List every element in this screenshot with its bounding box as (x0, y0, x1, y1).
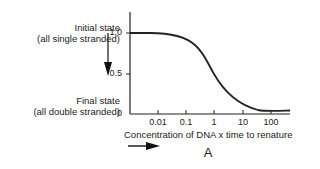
right-arrow-icon (128, 142, 160, 150)
y-tick-label: 1.0 (102, 27, 122, 37)
y-tick-label: 0.5 (102, 68, 122, 78)
x-tick-label: 1 (211, 117, 216, 127)
x-tick-label: 100 (263, 117, 278, 127)
panel-label: A (204, 145, 213, 160)
x-tick-label: 0.01 (149, 117, 167, 127)
final-state-line1: Final state (33, 95, 120, 106)
x-tick-label: 10 (238, 117, 248, 127)
x-axis-label: Concentration of DNA x time to renature (124, 129, 292, 140)
y-tick-label: 0 (102, 108, 122, 118)
x-tick-label: 0.1 (180, 117, 193, 127)
renaturation-curve (130, 33, 290, 111)
